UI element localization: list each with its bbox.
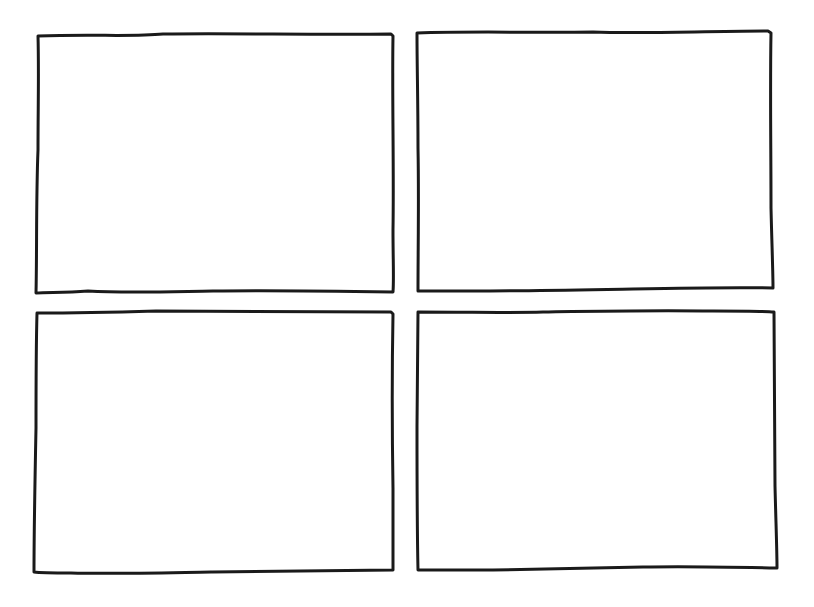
panel-top-right <box>417 32 773 291</box>
panel-border <box>33 30 398 298</box>
panel-border <box>413 28 777 295</box>
panel-bottom-left <box>35 312 394 575</box>
panel-bottom-right <box>417 310 778 573</box>
panel-border <box>413 306 782 577</box>
panel-top-left <box>37 34 394 294</box>
panel-border <box>31 308 398 579</box>
four-panel-grid <box>0 0 814 607</box>
